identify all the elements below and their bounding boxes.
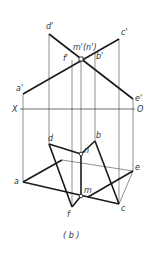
label-a-prime: a' xyxy=(16,84,23,93)
label-mn-prime: m'(n') xyxy=(73,43,97,52)
projection-diagram: d' c' a' e' f' b' m'(n') X O d b a e n m… xyxy=(0,0,153,254)
label-b-prime: b' xyxy=(96,52,103,61)
axis-label-o: O xyxy=(137,105,143,114)
top-view xyxy=(23,141,133,207)
label-c-prime: c' xyxy=(121,28,128,37)
label-f: f xyxy=(67,210,71,219)
diagram-svg: d' c' a' e' f' b' m'(n') X O d b a e n m… xyxy=(0,0,153,254)
axis-label-x: X xyxy=(11,105,18,114)
label-d: d xyxy=(48,134,54,143)
label-e: e xyxy=(135,163,140,172)
label-b: b xyxy=(96,131,101,140)
n-point xyxy=(79,152,83,156)
label-m: m xyxy=(84,186,92,195)
label-f-prime: f' xyxy=(63,54,68,63)
label-n: n xyxy=(84,146,89,155)
label-d-prime: d' xyxy=(46,22,53,31)
m-point xyxy=(79,194,83,198)
label-c: c xyxy=(121,204,126,213)
figure-caption: ( b ) xyxy=(63,231,79,240)
label-e-prime: e' xyxy=(135,94,142,103)
mn-point-front xyxy=(79,57,83,61)
label-a: a xyxy=(14,177,19,186)
